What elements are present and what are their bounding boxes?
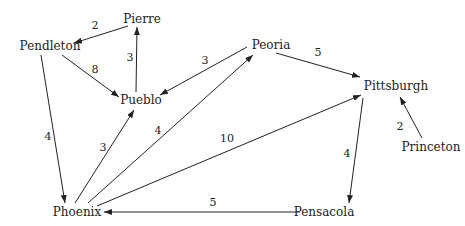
nodes-layer: PierrePendletonPuebloPeoriaPittsburghPri… [20,12,461,219]
node-phoenix: Phoenix [53,205,102,219]
edge-weight-pensacola-phoenix: 5 [210,196,217,209]
node-princeton: Princeton [402,140,461,154]
edge-pendleton-to-phoenix-arrow-icon [41,55,65,203]
edge-pittsburgh-to-pensacola-arrow-icon [349,98,363,203]
edge-weight-phoenix-pueblo: 3 [100,141,107,154]
node-pendleton: Pendleton [20,39,81,53]
edges-layer [41,26,422,212]
directed-graph-diagram: 2833543410245 PierrePendletonPuebloPeori… [0,0,465,226]
edge-pueblo-to-pierre-arrow-icon [136,27,137,92]
graph-canvas: 2833543410245 PierrePendletonPuebloPeori… [0,0,465,226]
node-pierre: Pierre [123,12,161,26]
edge-weight-peoria-pittsburgh: 5 [315,46,322,59]
node-pensacola: Pensacola [294,205,355,219]
node-pittsburgh: Pittsburgh [364,79,429,93]
edge-weight-pierre-pendleton: 2 [92,19,99,32]
edge-pierre-to-pendleton-arrow-icon [74,26,128,43]
edge-weight-pendleton-pueblo: 8 [92,63,99,76]
edge-weight-princeton-pittsburgh: 2 [397,120,404,133]
edge-weight-phoenix-pittsburgh: 10 [220,132,234,145]
edge-pendleton-to-pueblo-arrow-icon [62,55,119,97]
edge-weight-peoria-pueblo: 3 [202,54,209,67]
edge-phoenix-to-pittsburgh-arrow-icon [97,95,361,206]
edge-phoenix-to-pueblo-arrow-icon [75,110,134,203]
edge-weights-layer: 2833543410245 [45,19,404,209]
node-pueblo: Pueblo [120,93,162,107]
edge-phoenix-to-peoria-arrow-icon [88,55,253,203]
edge-weight-pendleton-phoenix: 4 [45,130,52,143]
edge-weight-phoenix-peoria: 4 [155,124,162,137]
node-peoria: Peoria [252,38,291,52]
edge-weight-pittsburgh-pensacola: 4 [344,147,351,160]
edge-weight-pueblo-pierre: 3 [127,51,134,64]
